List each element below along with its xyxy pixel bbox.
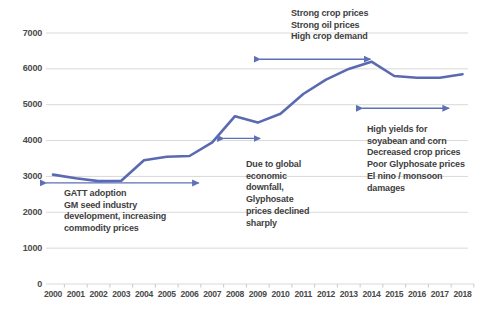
annotation-gatt-adoption: GATT adoptionGM seed industrydevelopment…	[64, 188, 166, 235]
annotation-line: Strong crop prices	[291, 8, 368, 20]
x-axis-label: 2016	[406, 289, 429, 299]
annotation-line: Poor Glyphosate prices	[367, 159, 465, 171]
x-axis-label: 2018	[451, 289, 474, 299]
x-axis-label: 2010	[269, 289, 292, 299]
x-axis-label: 2013	[337, 289, 360, 299]
x-axis-label: 2012	[315, 289, 338, 299]
annotation-line: GM seed industry	[64, 200, 166, 212]
annotation-line: soyabean and corn	[367, 136, 465, 148]
annotation-line: El nino / monsoon	[367, 171, 465, 183]
annotation-line: High crop demand	[291, 31, 368, 43]
y-axis-label: 2000	[2, 207, 42, 218]
x-axis-label: 2007	[201, 289, 224, 299]
annotation-line: Due to global	[246, 159, 309, 171]
annotation-line: development, increasing	[64, 211, 166, 223]
y-axis-label: 3000	[2, 171, 42, 182]
annotation-line: Decreased crop prices	[367, 147, 465, 159]
annotation-line: Strong oil prices	[291, 20, 368, 32]
x-axis-label: 2000	[42, 289, 65, 299]
y-axis-label: 7000	[2, 28, 42, 39]
annotation-global-downfall: Due to globaleconomicdownfall,Glyphosate…	[246, 159, 309, 229]
x-axis-label: 2008	[224, 289, 247, 299]
y-axis-label: 4000	[2, 135, 42, 146]
x-axis-label: 2011	[292, 289, 315, 299]
x-axis-label: 2014	[360, 289, 383, 299]
annotation-line: prices declined	[246, 206, 309, 218]
chart-canvas: 01000200030004000500060007000 2000200120…	[0, 0, 490, 324]
annotation-line: GATT adoption	[64, 188, 166, 200]
x-axis-label: 2001	[64, 289, 87, 299]
annotation-line: economic	[246, 171, 309, 183]
x-axis-label: 2009	[246, 289, 269, 299]
annotation-high-yields: High yields forsoyabean and cornDecrease…	[367, 124, 465, 194]
annotation-line: commodity prices	[64, 223, 166, 235]
y-axis-label: 6000	[2, 63, 42, 74]
annotation-line: Glyphosate	[246, 194, 309, 206]
x-axis-label: 2017	[428, 289, 451, 299]
x-axis-label: 2002	[87, 289, 110, 299]
x-axis-label: 2015	[383, 289, 406, 299]
annotation-strong-prices: Strong crop pricesStrong oil pricesHigh …	[291, 8, 368, 43]
x-axis-label: 2005	[155, 289, 178, 299]
x-axis-label: 2006	[178, 289, 201, 299]
x-axis-label: 2003	[110, 289, 133, 299]
annotation-line: High yields for	[367, 124, 465, 136]
annotation-line: sharply	[246, 218, 309, 230]
annotation-line: downfall,	[246, 182, 309, 194]
y-axis-label: 1000	[2, 243, 42, 254]
x-axis-label: 2004	[133, 289, 156, 299]
annotation-line: damages	[367, 183, 465, 195]
y-axis-label: 0	[2, 279, 42, 290]
y-axis-label: 5000	[2, 99, 42, 110]
